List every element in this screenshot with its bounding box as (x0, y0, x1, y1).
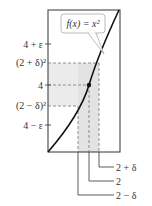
label-four-minus-eps: 4 − ε (23, 120, 43, 131)
label-four-plus-eps: 4 + ε (23, 39, 43, 50)
point-2-4 (87, 83, 91, 87)
label-two-minus-delta-sq: (2 − δ)² (16, 100, 46, 112)
label-two-plus-delta: 2 + δ (116, 162, 137, 173)
label-two-minus-delta: 2 − δ (116, 190, 137, 201)
epsilon-delta-diagram: 4 + ε (2 + δ)² 4 (2 − δ)² 4 − ε 2 + δ 2 … (0, 0, 152, 206)
function-label: f(x) = x² (66, 18, 100, 30)
label-four: 4 (38, 80, 43, 91)
x-band-shade (78, 63, 99, 152)
leader-two-plus-delta (99, 152, 114, 167)
leader-two (89, 152, 114, 181)
function-callout-pointer (88, 33, 104, 54)
leader-two-minus-delta (78, 152, 114, 195)
label-two: 2 (116, 176, 121, 187)
label-two-plus-delta-sq: (2 + δ)² (16, 57, 46, 69)
